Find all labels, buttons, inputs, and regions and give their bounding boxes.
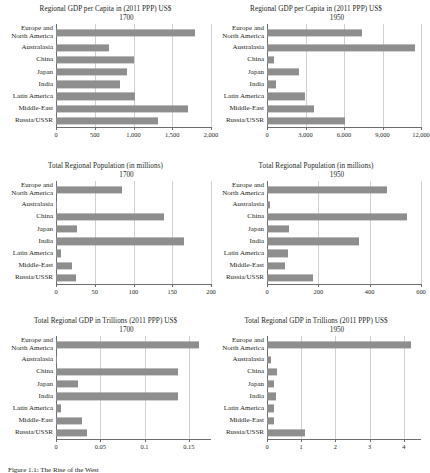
bar-row: Australasia [0,199,211,211]
bar-row: Latin America [211,247,421,259]
x-axis: 050100150200 [56,284,211,300]
x-axis: 00.050.10.15 [56,439,211,455]
bar [56,417,82,424]
bar-row: Australasia [211,354,421,366]
bar-track [56,78,211,90]
axis-tick [344,127,345,130]
axis-tick-label: 0 [54,131,57,139]
chart-grid: Regional GDP per Capita in (2011 PPP) US… [0,0,421,462]
category-label: China [211,368,267,375]
category-label: India [0,238,56,245]
axis-tick [267,284,268,287]
category-label: Japan [0,69,56,76]
bar-track [56,272,211,284]
category-label: Russia/USSR [0,274,56,281]
category-label: Japan [211,69,267,76]
bar-track [267,181,421,199]
category-label: Europe and North America [211,337,267,352]
axis-tick [100,439,101,442]
bar-row: Latin America [0,402,211,414]
bar-row: Japan [0,66,211,78]
axis-line [56,439,211,440]
bar [56,250,61,257]
bar-row: Middle-East [0,102,211,114]
bar-row: Russia/USSR [211,427,421,439]
gridline [421,181,422,284]
bar-rows: Europe and North AmericaAustralasiaChina… [0,24,211,127]
axis-tick-label: 0 [265,131,268,139]
axis-tick-label: 2 [334,443,337,451]
bar-rows: Europe and North AmericaAustralasiaChina… [211,336,421,439]
axis-tick-label: 1,500 [165,131,179,139]
category-label: Australasia [0,201,56,208]
axis-tick [189,439,190,442]
plot-area: Europe and North AmericaAustralasiaChina… [0,181,211,300]
figure-caption: Figure 1.1: The Rise of the West [8,466,99,473]
bar-track [56,181,211,199]
bar-row: Russia/USSR [211,272,421,284]
axis-tick-label: 400 [365,288,375,296]
bar-row: China [0,54,211,66]
bar-track [56,223,211,235]
bar-track [56,366,211,378]
bar-track [56,259,211,271]
bar [56,186,122,193]
bar-track [56,90,211,102]
axis-tick-label: 0 [265,443,268,451]
chart-title: Total Regional GDP in Trillions (2011 PP… [211,312,421,326]
category-label: China [0,368,56,375]
bar-track [267,24,421,42]
bar-track [267,259,421,271]
bar-track [267,66,421,78]
bar-track [267,211,421,223]
bar-row: Australasia [211,199,421,211]
bar [267,405,274,412]
bar [267,69,299,76]
plot-area: Europe and North AmericaAustralasiaChina… [211,336,421,455]
axis-tick [95,127,96,130]
bar [56,405,61,412]
bar [267,369,277,376]
axis-tick-label: 3,000 [298,131,312,139]
axis-tick [172,127,173,130]
bar-row: Europe and North America [0,336,211,354]
bar-row: Europe and North America [211,24,421,42]
bar-row: India [0,78,211,90]
bar-track [56,378,211,390]
axis-tick-label: 0 [54,288,57,296]
bar-row: Middle-East [0,414,211,426]
axis-line [267,439,421,440]
bar-rows: Europe and North AmericaAustralasiaChina… [0,181,211,284]
bar [56,429,87,436]
category-label: India [211,238,267,245]
bar [56,393,178,400]
bar [56,369,178,376]
category-label: Russia/USSR [0,429,56,436]
bar-track [267,378,421,390]
bar [56,341,199,348]
bar-track [267,427,421,439]
bar [267,105,314,112]
gridline [421,24,422,127]
bar [56,226,77,233]
x-axis: 0200400600 [267,284,421,300]
bar-track [267,414,421,426]
axis-tick-label: 1,000 [126,131,140,139]
axis-tick-label: 500 [90,131,100,139]
axis-tick [301,439,302,442]
bar-track [267,354,421,366]
bar-rows: Europe and North AmericaAustralasiaChina… [211,24,421,127]
bar [56,69,127,76]
bar-track [267,272,421,284]
category-label: Europe and North America [0,337,56,352]
bar-row: Russia/USSR [0,427,211,439]
category-label: Europe and North America [0,182,56,197]
category-label: China [0,56,56,63]
bar-track [56,24,211,42]
bar-row: Russia/USSR [0,115,211,127]
bar [267,238,359,245]
axis-tick [134,127,135,130]
category-label: Europe and North America [211,182,267,197]
bar [267,341,411,348]
chart-panel-population-1950: Total Regional Population (in millions)1… [211,157,421,312]
